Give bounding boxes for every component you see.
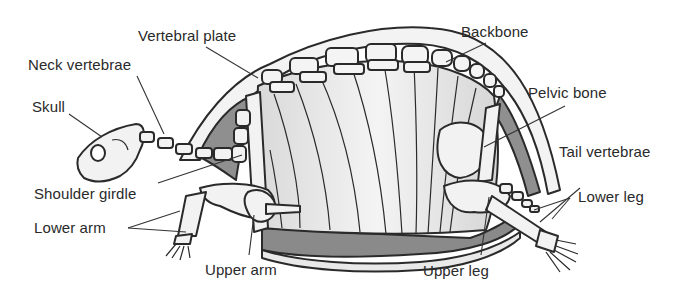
label-neck-vertebrae: Neck vertebrae	[28, 57, 131, 72]
label-tail-vertebrae: Tail vertebrae	[559, 144, 650, 159]
label-upper-arm: Upper arm	[205, 262, 277, 277]
turtle-skeleton-diagram: Vertebral plate Neck vertebrae Skull Bac…	[0, 0, 685, 297]
label-skull: Skull	[32, 99, 65, 114]
label-lower-arm: Lower arm	[34, 220, 106, 235]
label-lower-leg: Lower leg	[578, 189, 644, 204]
skull-bone	[77, 124, 144, 182]
label-upper-leg: Upper leg	[423, 263, 489, 278]
label-shoulder-girdle: Shoulder girdle	[34, 186, 136, 201]
label-vertebral-plate: Vertebral plate	[138, 28, 236, 43]
label-pelvic-bone: Pelvic bone	[528, 85, 607, 100]
label-backbone: Backbone	[461, 24, 529, 39]
